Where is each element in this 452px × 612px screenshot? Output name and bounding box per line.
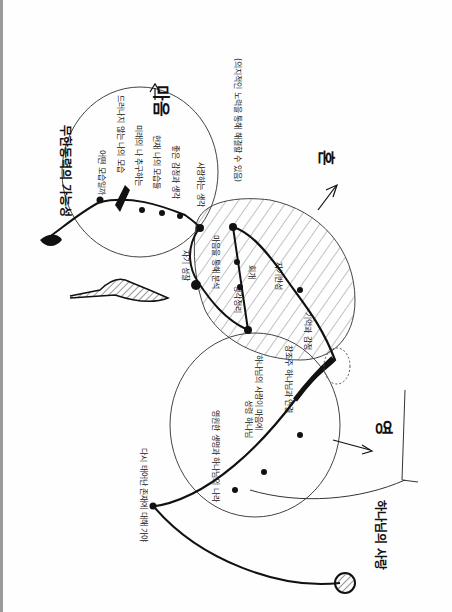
leaf-shape (40, 235, 62, 246)
label-top-left-title: 무한동력의 가능성 (58, 125, 75, 217)
hatched-note: 회개 (247, 265, 258, 279)
top-note: 드러나지 않는 나의 모습 (116, 95, 127, 173)
lower-note: 영원한 생명과 하나님의 나라 (211, 410, 222, 502)
hatched-note: 마음을 통해 분석 (211, 235, 222, 289)
tree-shape (115, 185, 130, 212)
label-hatched-circle: 혼 (315, 150, 340, 166)
hatched-note: (의지적인 노력을 통해 해결할 수 있음) (233, 58, 244, 182)
hatched-note: 생각정리 (233, 285, 244, 313)
top-note: 사랑하는 생각 (196, 162, 207, 207)
hatched-note: 기억과 감정 (303, 312, 314, 350)
label-top-circle: 마음 (150, 85, 175, 117)
top-note: 어떤 모습일까 (97, 150, 108, 195)
lower-note: 성령 하나님 (244, 400, 255, 438)
label-lower-circle: 영 (373, 420, 398, 436)
top-note: 좋은 감정과 생각 (171, 145, 182, 199)
hill-shape (70, 279, 168, 301)
side-line (402, 390, 418, 482)
lower-note: 하나님의 사랑이 마음에 (254, 355, 265, 430)
top-note: 미래의 나 추구하는 (134, 125, 145, 186)
bottom-line (155, 508, 340, 584)
hatched-note: 자기반성 (274, 262, 285, 290)
end-circle (335, 573, 355, 593)
top-note: 현재 나의 모습들 (152, 135, 163, 189)
lower-note: 창조주 하나님과 연결 (284, 345, 295, 413)
label-bottom-left-note: 다시 태어난 존재에 대해 가야 (139, 448, 150, 542)
label-tree: 자기 성찰 (181, 250, 192, 281)
label-bottom-right-title: 하나님의 사랑 (373, 500, 390, 570)
